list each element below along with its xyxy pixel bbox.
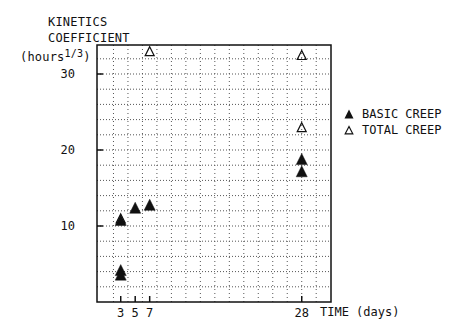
open-triangle-icon [344, 125, 354, 135]
data-points [115, 47, 307, 280]
x-tick-label: 3 [117, 306, 124, 320]
x-axis-title: TIME (days) [320, 305, 399, 319]
basic-creep-point [144, 199, 155, 210]
total-creep-point [145, 47, 154, 56]
total-creep-point [297, 51, 306, 60]
legend: BASIC CREEP TOTAL CREEP [344, 106, 441, 138]
total-creep-point [297, 123, 306, 132]
basic-creep-point [296, 166, 307, 177]
plot-frame [97, 45, 331, 302]
x-axis-ticks: 35728 [117, 296, 309, 320]
legend-item-total-creep: TOTAL CREEP [344, 122, 441, 138]
legend-label-total-creep: TOTAL CREEP [362, 122, 441, 138]
legend-label-basic-creep: BASIC CREEP [362, 106, 441, 122]
plot-area: 102030 35728 [0, 0, 461, 333]
y-tick-label: 10 [61, 219, 75, 233]
legend-item-basic-creep: BASIC CREEP [344, 106, 441, 122]
x-tick-label: 28 [294, 306, 308, 320]
y-tick-label: 30 [61, 67, 75, 81]
x-tick-label: 5 [132, 306, 139, 320]
y-tick-label: 20 [61, 143, 75, 157]
filled-triangle-icon [344, 109, 354, 119]
basic-creep-point [115, 214, 126, 225]
x-tick-label: 7 [146, 306, 153, 320]
basic-creep-point [296, 154, 307, 165]
basic-creep-point [130, 202, 141, 213]
grid-lines [97, 45, 331, 302]
